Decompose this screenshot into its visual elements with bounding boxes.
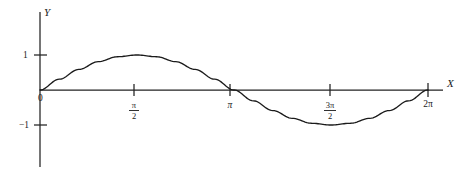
x-tick-label-pi-over-2: π 2 bbox=[129, 100, 139, 121]
y-axis-label: Y bbox=[44, 6, 52, 18]
fraction-numerator: π bbox=[132, 100, 137, 110]
x-tick-label-pi: π bbox=[228, 100, 233, 110]
plot-canvas: Y X 0 1 −1 π 2 π 3π 2 2π bbox=[0, 0, 469, 179]
x-tick-label-2pi: 2π bbox=[423, 99, 433, 109]
fraction-denominator: 2 bbox=[328, 111, 332, 121]
fraction-numerator: 3π bbox=[326, 100, 335, 110]
origin-label: 0 bbox=[38, 93, 43, 103]
x-axis-label: X bbox=[446, 77, 455, 89]
sine-curve-figure: Y X 0 1 −1 π 2 π 3π 2 2π bbox=[0, 0, 469, 179]
fraction-denominator: 2 bbox=[132, 111, 136, 121]
y-tick-label-1: 1 bbox=[23, 50, 28, 60]
y-tick-label-neg1: −1 bbox=[19, 120, 29, 130]
x-tick-label-3pi-over-2: 3π 2 bbox=[324, 100, 336, 121]
